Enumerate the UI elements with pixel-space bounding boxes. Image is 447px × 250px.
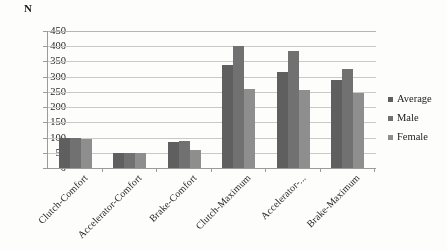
bar <box>179 141 190 168</box>
bar <box>353 93 364 168</box>
bar <box>190 150 201 168</box>
bar <box>244 89 255 168</box>
chart-legend: AverageMaleFemale <box>388 94 432 142</box>
legend-item-label: Female <box>397 132 428 142</box>
x-axis-label: Clutch-Comfort <box>36 172 90 226</box>
legend-item: Female <box>388 132 432 142</box>
bar <box>59 138 70 168</box>
bar <box>331 80 342 168</box>
bar <box>222 65 233 169</box>
x-axis-labels: Clutch-ComfortAccelerator-ComfortBrake-C… <box>48 172 375 250</box>
bar-group <box>212 31 267 168</box>
bar-group <box>157 31 212 168</box>
bar <box>113 153 124 168</box>
bar <box>70 138 81 168</box>
x-axis-label: Accelerator-... <box>258 172 307 221</box>
bar <box>288 51 299 168</box>
bar-chart: N 450400350300250200150100500 Clutch-Com… <box>0 0 447 250</box>
bar <box>135 153 146 168</box>
bar <box>124 153 135 168</box>
legend-swatch-icon <box>388 97 393 102</box>
bar <box>168 142 179 168</box>
bar-groups <box>48 31 375 168</box>
legend-swatch-icon <box>388 116 393 121</box>
bar <box>81 139 92 168</box>
legend-item: Male <box>388 113 432 123</box>
x-axis-label: Brake-Comfort <box>147 172 199 224</box>
x-axis-label: Clutch-Maximum <box>194 172 253 231</box>
x-axis-label: Brake-Maximum <box>305 172 362 229</box>
bar-group <box>103 31 158 168</box>
bar <box>299 90 310 168</box>
bar-group <box>48 31 103 168</box>
bar <box>233 46 244 168</box>
bar-group <box>321 31 376 168</box>
y-axis-unit-label: N <box>24 2 32 14</box>
bar-group <box>266 31 321 168</box>
legend-swatch-icon <box>388 135 393 140</box>
legend-item-label: Average <box>397 94 432 104</box>
bar <box>277 72 288 168</box>
legend-item-label: Male <box>397 113 419 123</box>
legend-item: Average <box>388 94 432 104</box>
bar <box>342 69 353 168</box>
